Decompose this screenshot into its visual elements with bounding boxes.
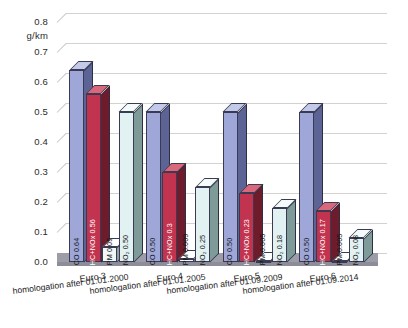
bar-side-face <box>101 85 110 262</box>
emissions-bar-chart: 0.00.10.20.30.40.50.60.70.8g/kmCO 0.64HC… <box>0 0 408 328</box>
gridline-riser <box>57 13 67 23</box>
y-axis-tick-label: 0.3 <box>14 166 48 177</box>
bar-data-label: HC+NOx 0.23 <box>242 219 249 265</box>
y-axis-tick-label: 0.5 <box>14 106 48 117</box>
y-axis-tick-label: 0.7 <box>14 46 48 57</box>
bar-data-label: NO₂ 0.18 <box>275 235 282 265</box>
y-axis-unit-label: g/km <box>14 30 48 41</box>
bar-data-label: NO₂ 0.08 <box>352 235 359 265</box>
bar-data-label: PM 0.005 <box>259 234 266 266</box>
bar-data-label: CO 0.50 <box>149 238 156 265</box>
y-axis-tick-label: 0.1 <box>14 226 48 237</box>
bar-data-label: PM 0.05 <box>105 238 112 265</box>
gridline <box>66 13 387 14</box>
gridline-riser <box>57 223 67 233</box>
gridline-riser <box>57 193 67 203</box>
y-axis-tick-label: 0.2 <box>14 196 48 207</box>
y-axis-tick-label: 0.0 <box>14 256 48 267</box>
gridline-riser <box>57 133 67 143</box>
y-axis-tick-label: 0.6 <box>14 76 48 87</box>
bar-data-label: HC+NOx 0.17 <box>319 219 326 265</box>
bar-data-label: CO 0.50 <box>303 238 310 265</box>
bar-side-face <box>287 199 296 262</box>
gridline <box>66 73 387 74</box>
y-axis-tick-label: 0.4 <box>14 136 48 147</box>
gridline <box>66 43 387 44</box>
bar-data-label: CO 0.64 <box>72 238 79 265</box>
bar-data-label: PM 0.009 <box>182 234 189 266</box>
bar-data-label: CO 0.50 <box>226 238 233 265</box>
bar-data-label: HC+NOx 0.56 <box>89 219 96 265</box>
gridline-riser <box>57 73 67 83</box>
bar-data-label: NO₂ 0.50 <box>122 235 129 265</box>
bar-front-face <box>69 70 84 262</box>
y-axis-tick-label: 0.8 <box>14 16 48 27</box>
gridline-riser <box>57 163 67 173</box>
gridline-riser <box>57 103 67 113</box>
bar-data-label: HC+NOx 0.3 <box>166 223 173 265</box>
bar-data-label: PM 0.005 <box>336 234 343 266</box>
bar-side-face <box>210 178 219 262</box>
bar-data-label: NO₂ 0.25 <box>199 235 206 265</box>
bar-side-face <box>134 103 143 262</box>
gridline-riser <box>57 43 67 53</box>
